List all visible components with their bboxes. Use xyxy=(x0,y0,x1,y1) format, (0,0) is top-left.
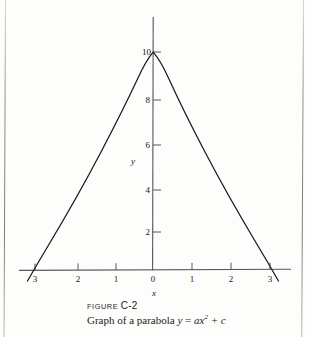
x-tick-label: 2 xyxy=(76,274,81,284)
figure-page: 3 2 1 0 1 2 3 2 4 6 8 10 y x FIGURE C-2 xyxy=(0,0,313,337)
x-tick-labels: 3 2 1 0 1 2 3 xyxy=(33,274,273,284)
figure-caption-word: FIGURE xyxy=(87,302,118,311)
caption-coefficient: ax xyxy=(194,314,204,326)
x-tick-label: 1 xyxy=(114,274,119,284)
y-tick-labels: 2 4 6 8 10 xyxy=(142,47,152,237)
x-axis-line xyxy=(19,269,291,270)
figure-caption-title: FIGURE C-2 xyxy=(87,300,297,312)
caption-text-prefix: Graph of a parabola xyxy=(87,314,177,326)
x-axis-label: x xyxy=(151,288,156,298)
y-tick-label: 6 xyxy=(146,140,151,150)
y-axis-ticks xyxy=(153,52,161,232)
caption-plus-c: + c xyxy=(208,314,226,326)
y-tick-label: 10 xyxy=(142,47,152,57)
x-tick-label: 3 xyxy=(33,274,38,284)
caption-equals: = xyxy=(182,314,194,326)
x-tick-label: 2 xyxy=(229,274,234,284)
x-tick-label: 0 xyxy=(151,274,156,284)
x-tick-label: 3 xyxy=(268,274,273,284)
figure-caption-description: Graph of a parabola y = ax2 + c xyxy=(87,313,297,327)
y-tick-label: 8 xyxy=(146,95,151,105)
figure-caption-number: C-2 xyxy=(121,300,138,311)
y-axis-label: y xyxy=(130,156,135,166)
x-tick-label: 1 xyxy=(190,274,195,284)
parabola-figure: 3 2 1 0 1 2 3 2 4 6 8 10 y x xyxy=(0,0,313,300)
y-tick-label: 4 xyxy=(146,185,151,195)
y-tick-label: 2 xyxy=(146,227,151,237)
parabola-plot: 3 2 1 0 1 2 3 2 4 6 8 10 y x xyxy=(0,0,313,300)
figure-caption: FIGURE C-2 Graph of a parabola y = ax2 +… xyxy=(87,300,297,327)
